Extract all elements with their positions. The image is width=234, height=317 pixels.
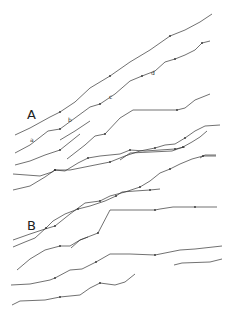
trace-marker — [97, 232, 99, 234]
trace-marker — [154, 147, 156, 149]
trace-label-c: c — [109, 94, 112, 100]
trace-label-d: d — [151, 70, 155, 76]
trace-marker — [109, 75, 111, 77]
trace-marker — [95, 261, 97, 263]
trace-marker — [99, 200, 101, 202]
trace-line — [15, 41, 210, 153]
trace-marker — [77, 208, 79, 210]
trace-marker — [176, 109, 178, 111]
trace-marker — [115, 195, 117, 197]
trace-marker — [54, 225, 56, 227]
trace-line — [11, 246, 222, 285]
traces-plot — [0, 0, 234, 317]
trace-marker — [139, 186, 141, 188]
trace-marker — [54, 169, 56, 171]
trace-marker — [99, 282, 101, 284]
trace-line — [12, 274, 135, 305]
trace-marker — [59, 149, 61, 151]
panel-label-b: B — [27, 219, 36, 232]
trace-marker — [154, 209, 156, 211]
trace-marker — [184, 137, 186, 139]
trace-marker — [194, 206, 196, 208]
trace-line — [15, 14, 212, 135]
trace-marker — [104, 133, 106, 135]
trace-marker — [154, 254, 156, 256]
trace-marker — [169, 168, 171, 170]
trace-marker — [149, 189, 151, 191]
trace-marker — [59, 111, 61, 113]
trace-marker — [202, 155, 204, 157]
trace-marker — [129, 149, 131, 151]
trace-line — [17, 207, 217, 270]
trace-label-a: a — [30, 137, 34, 143]
trace-marker — [174, 148, 176, 150]
trace-line — [67, 94, 210, 159]
panel-label-a: A — [27, 108, 36, 121]
trace-marker — [54, 277, 56, 279]
trace-line — [13, 125, 220, 190]
trace-label-b: b — [68, 117, 72, 123]
trace-line — [174, 259, 222, 265]
trace-marker — [59, 245, 61, 247]
trace-line — [71, 237, 88, 248]
trace-line — [60, 121, 90, 140]
trace-marker — [59, 296, 61, 298]
trace-line — [15, 134, 80, 165]
trace-figure: AB abcd — [0, 0, 234, 317]
trace-marker — [169, 35, 171, 37]
trace-marker — [109, 161, 111, 163]
trace-marker — [141, 75, 143, 77]
trace-marker — [59, 128, 61, 130]
trace-marker — [201, 42, 203, 44]
trace-marker — [87, 157, 89, 159]
trace-marker — [99, 103, 101, 105]
trace-marker — [45, 227, 47, 229]
trace-line — [13, 156, 216, 240]
trace-marker — [174, 58, 176, 60]
